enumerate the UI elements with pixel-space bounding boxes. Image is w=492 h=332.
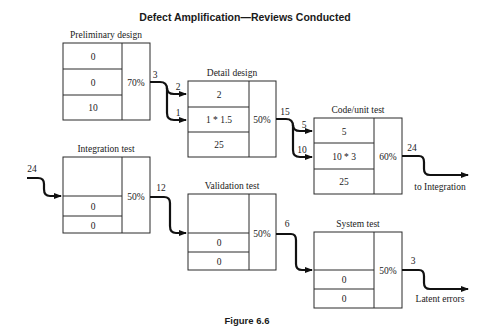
flow-system-out: 3 Latent errors [402, 256, 468, 304]
flow-in-count-2: 1 [176, 108, 181, 118]
flow-out-count: 24 [407, 143, 417, 153]
flow-out-count: 3 [153, 70, 158, 80]
detection-efficiency: 50% [127, 192, 145, 202]
flow-into-integration: 24 [27, 164, 61, 196]
errors-from-previous: 2 [217, 90, 222, 100]
errors-passed-through: 0 [91, 78, 96, 88]
step-preliminary-design: Preliminary design 0 0 10 70% [63, 30, 150, 120]
newly-generated-errors: 10 [88, 103, 98, 113]
newly-generated-errors: 25 [214, 140, 224, 150]
detection-efficiency: 50% [253, 229, 271, 239]
step-title: Detail design [207, 68, 258, 78]
errors-amplified: 10 * 3 [332, 152, 356, 162]
detection-efficiency: 50% [253, 115, 271, 125]
detection-efficiency: 70% [127, 78, 145, 88]
flow-validation-to-system: 6 [276, 219, 312, 270]
flow-out-count: 3 [411, 256, 416, 266]
errors-from-previous: 5 [342, 127, 347, 137]
flow-in-count-1: 2 [176, 82, 181, 92]
step-title: System test [336, 219, 380, 229]
flow-in-count-1: 5 [302, 120, 307, 130]
newly-generated-errors: 0 [342, 294, 347, 304]
errors-amplified: 1 * 1.5 [206, 115, 232, 125]
errors-amplified: 0 [342, 275, 347, 285]
detection-efficiency: 50% [379, 266, 397, 276]
step-title: Integration test [77, 144, 135, 154]
detection-efficiency: 60% [379, 152, 397, 162]
flow-in-count: 24 [27, 164, 37, 174]
step-title: Preliminary design [70, 30, 142, 40]
newly-generated-errors: 0 [217, 257, 222, 267]
step-detail-design: Detail design 2 1 * 1.5 25 50% [188, 68, 276, 157]
step-title: Validation test [205, 181, 260, 191]
flow-out-count: 15 [280, 107, 290, 117]
figure-caption: Figure 6.6 [225, 315, 270, 326]
flow-out-label: Latent errors [416, 294, 465, 304]
flow-out-count: 6 [285, 219, 290, 229]
flow-code-out: 24 to Integration [402, 143, 468, 192]
flow-detail-to-code: 15 5 10 [276, 107, 312, 157]
errors-amplified: 0 [217, 238, 222, 248]
flow-preliminary-to-detail: 3 2 1 [150, 70, 186, 120]
flow-out-label: to Integration [414, 182, 466, 192]
step-title: Code/unit test [331, 105, 384, 115]
newly-generated-errors: 0 [91, 221, 96, 231]
newly-generated-errors: 25 [339, 177, 349, 187]
step-code-unit-test: Code/unit test 5 10 * 3 25 60% [314, 105, 402, 194]
flow-integration-to-validation: 12 [150, 183, 186, 233]
diagram-title: Defect Amplification—Reviews Conducted [139, 11, 350, 23]
step-integration-test: Integration test 0 0 50% [63, 144, 150, 233]
flow-in-count-2: 10 [297, 145, 307, 155]
defect-amplification-diagram: Defect Amplification—Reviews Conducted P… [0, 0, 492, 332]
errors-amplified: 0 [91, 202, 96, 212]
step-system-test: System test 0 0 50% [314, 219, 402, 308]
flow-out-count: 12 [156, 183, 166, 193]
errors-from-previous: 0 [91, 52, 96, 62]
step-validation-test: Validation test 0 0 50% [188, 181, 276, 270]
